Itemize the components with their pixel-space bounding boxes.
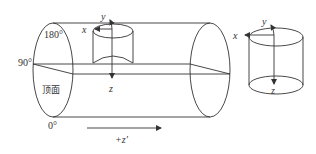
- standalone-y-axis-arrow: [271, 25, 274, 35]
- standalone-cylinder-top: [249, 28, 303, 46]
- angle-label-0: 0°: [48, 120, 57, 131]
- pipe-right-end: [190, 23, 230, 117]
- standalone-x-label: x: [232, 30, 238, 41]
- top-face-label: 顶面: [42, 85, 60, 95]
- inner-x-label: x: [81, 24, 87, 35]
- inner-cylinder: x y z: [81, 11, 133, 94]
- angle-label-180: 180°: [44, 29, 63, 40]
- plane-left-edge: [33, 64, 73, 74]
- angle-label-90: 90°: [18, 57, 32, 68]
- standalone-y-label: y: [261, 16, 267, 27]
- section-plane: [33, 64, 230, 74]
- pipe-coordinate-diagram: x y z 180° 90° 顶面 0° +z′ x y z: [0, 0, 316, 154]
- z-prime-direction: +z′: [87, 128, 161, 145]
- standalone-cylinder: x y z: [232, 16, 303, 96]
- z-prime-label: +z′: [115, 134, 129, 145]
- standalone-z-label: z: [270, 85, 275, 96]
- standalone-cylinder-bottom: [249, 76, 303, 94]
- plane-right-edge: [190, 64, 230, 74]
- inner-y-label: y: [100, 11, 106, 22]
- inner-cylinder-bottom-curve: [93, 56, 133, 63]
- inner-cylinder-top: [93, 24, 133, 38]
- inner-z-label: z: [108, 83, 113, 94]
